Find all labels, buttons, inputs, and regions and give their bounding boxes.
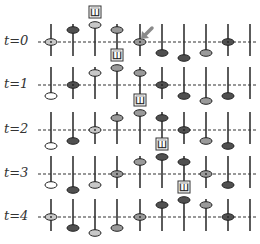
trap-glyph: Ш [90, 8, 100, 18]
particle-bead [111, 115, 123, 122]
particle-bead [156, 154, 168, 161]
particle-bead [178, 159, 190, 166]
bead-center-dot [50, 216, 52, 218]
particle-bead [222, 143, 234, 150]
bead-center-dot [227, 41, 229, 43]
bead-center-dot [72, 84, 74, 86]
particle-bead [178, 197, 190, 204]
particle-bead [222, 182, 234, 189]
particle-bead [67, 27, 79, 34]
particle-bead [200, 50, 212, 57]
particle-bead [89, 22, 101, 29]
particle-bead [134, 159, 146, 166]
trap-glyph: Ш [179, 183, 189, 193]
particle-bead [67, 187, 79, 194]
particle-bead [89, 70, 101, 77]
bead-center-dot [183, 129, 185, 131]
row-label-t3: t=3 [4, 166, 28, 180]
bead-center-dot [161, 84, 163, 86]
particle-bead [111, 225, 123, 232]
particle-bead [45, 93, 57, 100]
row-label-t4: t=4 [4, 209, 28, 223]
row-label-t0: t=0 [4, 34, 28, 48]
bead-center-dot [205, 173, 207, 175]
bead-center-dot [94, 129, 96, 131]
row-label-t2: t=2 [4, 122, 28, 136]
particle-bead [200, 138, 212, 145]
pointer-arrow-shaft [145, 28, 152, 35]
particle-bead [67, 225, 79, 232]
particle-bead [156, 115, 168, 122]
particle-bead [89, 182, 101, 189]
particle-bead [178, 93, 190, 100]
particle-bead [45, 143, 57, 150]
row-label-t1: t=1 [4, 77, 28, 91]
particle-bead [156, 202, 168, 209]
bead-center-dot [227, 216, 229, 218]
trap-glyph: Ш [135, 96, 145, 106]
particle-bead [111, 27, 123, 34]
particle-bead [134, 70, 146, 77]
bead-center-dot [50, 41, 52, 43]
trap-glyph: Ш [112, 51, 122, 61]
particle-bead [111, 65, 123, 72]
particle-bead [200, 98, 212, 105]
bead-center-dot [139, 41, 141, 43]
particle-bead [222, 93, 234, 100]
particle-bead [89, 230, 101, 237]
dimer-chain-diagram: ШШШШШ t=0t=1t=2t=3t=4 [0, 0, 260, 244]
bead-center-dot [139, 216, 141, 218]
particle-bead [200, 202, 212, 209]
particle-bead [45, 182, 57, 189]
particle-bead [134, 110, 146, 117]
particle-bead [67, 138, 79, 145]
particle-bead [156, 50, 168, 57]
trap-glyph: Ш [157, 140, 167, 150]
bead-center-dot [116, 173, 118, 175]
particle-bead [178, 55, 190, 62]
diagram-canvas: ШШШШШ [0, 0, 260, 244]
